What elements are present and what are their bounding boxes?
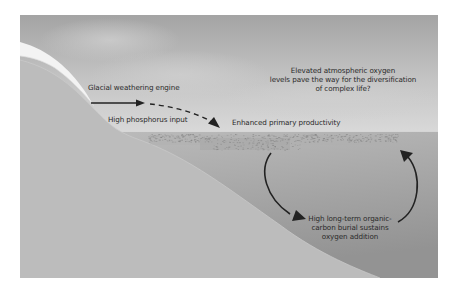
burial-line-1: High long-term organic- [302,214,398,223]
label-atmospheric-oxygen: Elevated atmospheric oxygen levels pave … [268,66,418,93]
oxygen-line-1: Elevated atmospheric oxygen [268,66,418,75]
diagram-canvas [0,0,453,285]
label-glacial-weathering: Glacial weathering engine [88,83,179,92]
oxygen-line-3: of complex life? [268,84,418,93]
burial-line-2: carbon burial sustains [302,223,398,232]
burial-line-3: oxygen addition [302,232,398,241]
label-carbon-burial: High long-term organic- carbon burial su… [302,214,398,241]
label-phosphorus-input: High phosphorus input [108,115,188,124]
label-primary-productivity: Enhanced primary productivity [232,118,340,127]
oxygen-line-2: levels pave the way for the diversificat… [268,75,418,84]
